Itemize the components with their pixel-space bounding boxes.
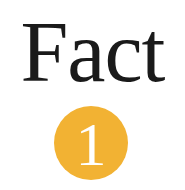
number-badge: 1 bbox=[54, 106, 128, 180]
badge-number: 1 bbox=[76, 113, 107, 175]
fact-heading: Fact bbox=[0, 4, 185, 100]
